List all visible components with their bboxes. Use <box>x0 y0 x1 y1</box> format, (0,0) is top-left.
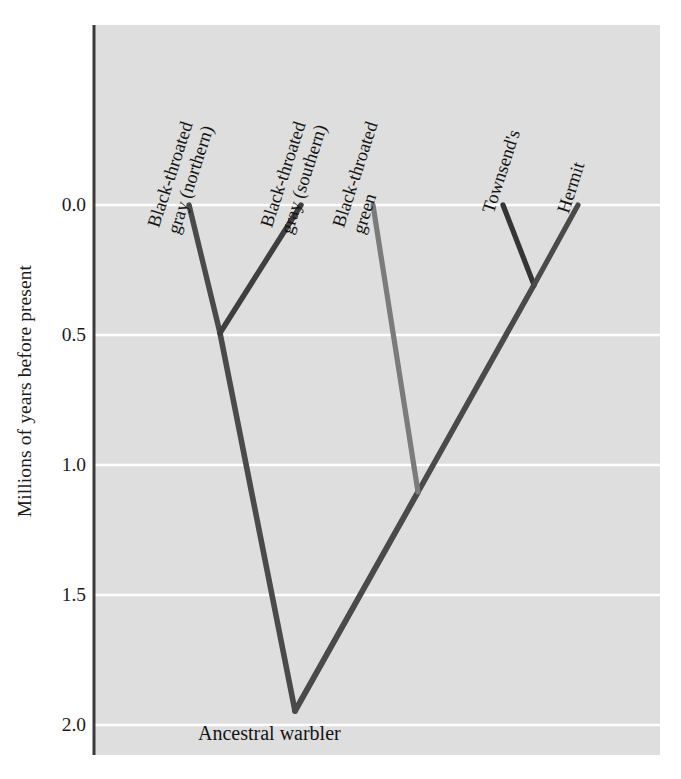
tree-canvas <box>0 0 681 779</box>
phylogenetic-tree-figure: Millions of years before present 0.0 0.5… <box>0 0 681 779</box>
root-label-ancestral-warbler: Ancestral warbler <box>198 722 341 745</box>
